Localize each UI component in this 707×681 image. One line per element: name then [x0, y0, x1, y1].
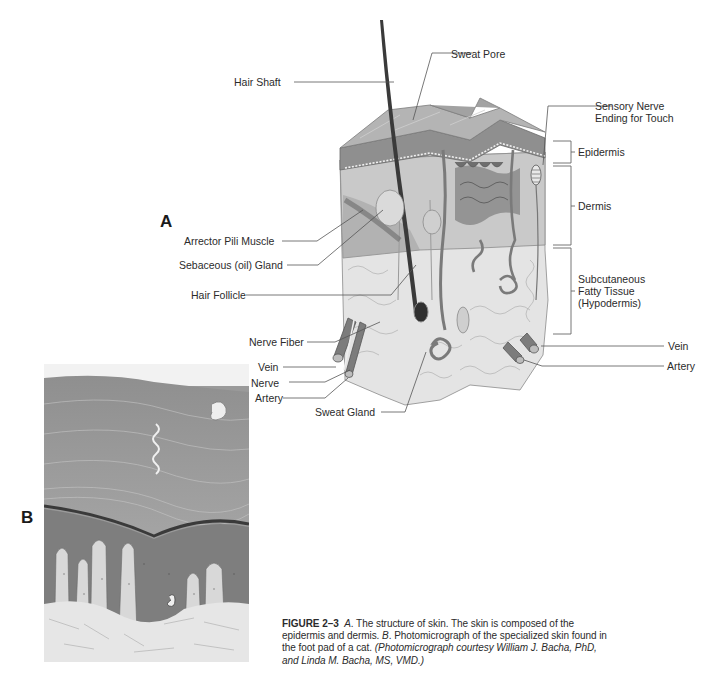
label-dermis: Dermis — [578, 200, 611, 212]
label-sensory-nerve-line1: Sensory Nerve — [595, 100, 664, 112]
label-nerve-fiber: Nerve Fiber — [249, 336, 304, 348]
layer-brackets — [553, 141, 575, 334]
label-sensory-nerve-line2: Ending for Touch — [595, 112, 674, 124]
label-hair-shaft: Hair Shaft — [234, 76, 281, 88]
label-artery-right: Artery — [667, 360, 695, 372]
figure-caption: FIGURE 2–3 A. The structure of skin. The… — [282, 618, 612, 667]
label-subcutaneous-line1: Subcutaneous — [578, 273, 645, 285]
label-subcutaneous-line3: (Hypodermis) — [578, 297, 641, 309]
label-subcutaneous-line2: Fatty Tissue — [578, 285, 635, 297]
label-sweat-pore: Sweat Pore — [451, 48, 505, 60]
caption-panel-a-ref: A — [344, 618, 351, 629]
label-hair-follicle: Hair Follicle — [191, 289, 246, 301]
photomicrograph-foot-pad — [44, 364, 249, 662]
label-sebaceous-gland: Sebaceous (oil) Gland — [179, 259, 283, 271]
caption-panel-b-ref: B — [382, 630, 389, 641]
label-arrector-pili-muscle: Arrector Pili Muscle — [184, 235, 274, 247]
label-sweat-gland: Sweat Gland — [315, 406, 375, 418]
label-epidermis: Epidermis — [578, 146, 625, 158]
label-nerve-left: Nerve — [251, 377, 279, 389]
label-artery-left: Artery — [255, 392, 283, 404]
sebaceous-gland — [376, 190, 404, 226]
panel-a-letter: A — [160, 212, 172, 232]
label-vein-right: Vein — [668, 340, 688, 352]
panel-b-letter: B — [21, 508, 33, 528]
figure-number: FIGURE 2–3 — [282, 618, 339, 629]
label-vein-left: Vein — [258, 361, 278, 373]
